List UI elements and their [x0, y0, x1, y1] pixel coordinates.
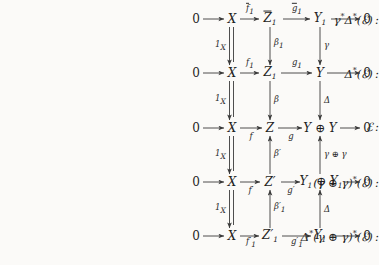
- hlabel-r5-g: g′1: [291, 237, 303, 248]
- node-r3-c1: 0: [192, 122, 200, 134]
- vlabel-z-1: β1: [274, 38, 284, 49]
- vlabel-y-4: Δ: [324, 205, 330, 214]
- hlabel-r2-g: g1: [292, 58, 302, 69]
- hlabel-r1-f: f1: [246, 4, 254, 15]
- vlabel-x-4: 1X: [215, 203, 226, 214]
- node-r3-c3: Z: [266, 122, 274, 134]
- node-r1-c2: X: [228, 13, 237, 25]
- node-r3-c4: Y ⊕ Y: [303, 122, 337, 134]
- node-r1-c3: Z1: [263, 12, 276, 27]
- hlabel-r2-f: f1: [246, 58, 254, 69]
- node-r4-c3: Z′: [264, 176, 275, 188]
- node-r2-c1: 0: [192, 67, 200, 79]
- node-r1-c5: 0: [363, 13, 371, 25]
- vlabel-y-3: γ ⊕ γ: [324, 150, 347, 159]
- node-r2-c4: Y: [316, 67, 324, 79]
- node-r1-c1: 0: [192, 13, 200, 25]
- hlabel-r1-g: g1: [292, 4, 302, 15]
- vlabel-z-4: β′1: [274, 202, 286, 213]
- hlabel-r4-f: f′: [248, 186, 253, 195]
- hlabel-r4-g: g′: [287, 186, 294, 195]
- node-r3-c2: X: [228, 122, 237, 134]
- node-r2-c2: X: [228, 67, 237, 79]
- node-r5-c1: 0: [192, 230, 200, 242]
- hlabel-r3-g: g: [288, 132, 293, 141]
- commutative-diagram: γ*Δ*(ℰ) : Δ*(ℰ) : ℰ : (γ ⊕ γ)*(ℰ) : Δ*(γ…: [0, 0, 379, 265]
- node-r3-c5: 0: [363, 122, 371, 134]
- node-r5-c3: Z′1: [262, 229, 278, 244]
- node-r4-c1: 0: [192, 176, 200, 188]
- vlabel-z-2: β: [274, 95, 279, 104]
- node-r5-c5: 0: [363, 230, 371, 242]
- hlabel-r3-f: f: [249, 132, 252, 141]
- vlabel-x-2: 1X: [215, 94, 226, 105]
- vlabel-y-2: Δ: [324, 96, 330, 105]
- hlabel-r5-f: f′1: [246, 237, 256, 248]
- node-r5-c4: Y1: [314, 229, 327, 244]
- node-r1-c4: Y1: [314, 12, 327, 27]
- vlabel-x-3: 1X: [215, 149, 226, 160]
- node-r4-c4: Y1 ⊕ Y1: [299, 175, 342, 190]
- vlabel-x-1: 1X: [215, 40, 226, 51]
- node-r2-c5: 0: [363, 67, 371, 79]
- node-r4-c2: X: [228, 176, 237, 188]
- vlabel-y-1: γ: [324, 41, 329, 50]
- vlabel-z-3: β′: [274, 149, 281, 158]
- node-r4-c5: 0: [363, 176, 371, 188]
- node-r2-c3: Z1: [263, 66, 276, 81]
- node-r5-c2: X: [228, 230, 237, 242]
